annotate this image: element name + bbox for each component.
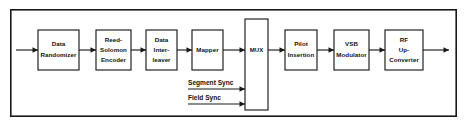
segment-sync-label: Segment Sync <box>188 79 234 87</box>
block-label-line: Up- <box>399 46 409 53</box>
diagram-canvas: Data Randomizer Reed- Solomon Encoder Da… <box>0 0 468 126</box>
block-label-line: Solomon <box>100 46 127 53</box>
block-label-line: Modulator <box>336 51 367 58</box>
block-label-line: Encoder <box>101 56 127 63</box>
block-label-line: Mapper <box>196 46 219 53</box>
block-reed-solomon-encoder[interactable]: Reed- Solomon Encoder <box>96 30 131 70</box>
block-label-line: Pilot <box>294 40 308 47</box>
block-data-randomizer[interactable]: Data Randomizer <box>38 30 79 70</box>
block-diagram: Data Randomizer Reed- Solomon Encoder Da… <box>0 0 468 126</box>
block-label-line: Converter <box>389 56 419 63</box>
block-label-line: MUX <box>250 47 263 53</box>
block-label-line: Data <box>52 40 66 47</box>
block-pilot-insertion[interactable]: Pilot Insertion <box>285 30 317 70</box>
block-label-line: Randomizer <box>41 51 77 58</box>
block-rf-up-converter[interactable]: RF Up- Converter <box>385 30 423 70</box>
block-label-line: VSB <box>345 40 358 47</box>
block-label-line: Insertion <box>288 51 315 58</box>
block-label-line: RF <box>400 36 409 43</box>
block-label-line: Data <box>155 36 169 43</box>
field-sync-label: Field Sync <box>188 94 221 102</box>
block-mapper[interactable]: Mapper <box>192 30 223 70</box>
block-mux[interactable]: MUX <box>245 19 268 110</box>
block-label-line: leaver <box>152 56 171 63</box>
block-label-line: Reed- <box>105 36 122 43</box>
block-data-interleaver[interactable]: Data Inter- leaver <box>146 30 177 70</box>
block-vsb-modulator[interactable]: VSB Modulator <box>334 30 369 70</box>
block-label-line: Inter- <box>154 46 170 53</box>
